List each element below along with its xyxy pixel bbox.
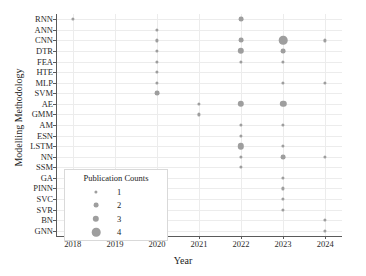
publication-counts-scatter-chart: RNNANNCNNDTRFEAHTEMLPSVMAEGMMAMESNLSTMNN… xyxy=(0,0,366,276)
y-axis-tick-label: LSTM xyxy=(30,142,53,151)
y-axis-tick-label: GMM xyxy=(32,110,53,119)
y-axis-tick-label: FEA xyxy=(37,57,53,66)
y-axis-tick-label: AE xyxy=(42,100,53,109)
y-axis-tick-label: ESN xyxy=(37,131,53,140)
y-axis-tick xyxy=(53,62,56,63)
data-point xyxy=(324,219,327,222)
x-axis-tick-labels: 2018201920202021202220232024 xyxy=(56,240,342,252)
y-axis-tick xyxy=(53,178,56,179)
data-point xyxy=(155,49,158,52)
x-axis-tick-label: 2021 xyxy=(191,240,208,249)
y-axis-tick xyxy=(53,93,56,94)
y-axis-tick-label: HTE xyxy=(36,68,53,77)
legend-key-circle xyxy=(94,190,97,193)
data-point xyxy=(238,48,244,54)
y-axis-tick xyxy=(53,125,56,126)
y-axis-tick xyxy=(53,167,56,168)
legend-key-circle xyxy=(94,203,99,208)
y-axis-tick-label: NN xyxy=(41,152,53,161)
data-point xyxy=(155,71,158,74)
y-axis-tick xyxy=(53,114,56,115)
data-point xyxy=(155,81,158,84)
data-point xyxy=(282,145,285,148)
data-point xyxy=(282,176,285,179)
data-point xyxy=(239,17,244,22)
y-axis-tick-label: DTR xyxy=(36,47,53,56)
data-point xyxy=(281,154,286,159)
y-axis-tick-label: PINN xyxy=(33,184,53,193)
data-point xyxy=(324,229,327,232)
y-axis-tick-label: SVM xyxy=(35,89,53,98)
data-point xyxy=(71,18,74,21)
data-point xyxy=(155,60,158,63)
data-point xyxy=(238,101,244,107)
data-point xyxy=(282,60,285,63)
data-point xyxy=(324,39,327,42)
y-axis-tick xyxy=(53,40,56,41)
y-axis-tick-label: GA xyxy=(41,174,53,183)
x-axis-tick-label: 2024 xyxy=(317,240,334,249)
y-axis-tick xyxy=(53,210,56,211)
legend-item-label: 2 xyxy=(117,200,121,210)
data-point xyxy=(281,49,286,54)
data-point xyxy=(239,38,244,43)
data-point xyxy=(282,81,285,84)
y-axis-title: Modelling Methodology xyxy=(13,48,24,188)
data-point xyxy=(155,91,160,96)
x-axis-title: Year xyxy=(0,255,366,266)
x-axis-tick-label: 2019 xyxy=(106,240,123,249)
x-axis-tick-label: 2018 xyxy=(64,240,81,249)
data-point xyxy=(197,102,200,105)
legend-item: 4 xyxy=(65,226,167,239)
legend-item-label: 3 xyxy=(117,214,121,224)
y-axis-tick xyxy=(53,30,56,31)
data-point xyxy=(280,101,286,107)
legend-key-circle xyxy=(93,215,99,221)
data-point xyxy=(239,155,242,158)
legend-item: 3 xyxy=(65,212,167,225)
y-axis-tick xyxy=(53,104,56,105)
legend-item-label: 1 xyxy=(117,187,121,197)
y-axis-tick-label: BN xyxy=(41,216,53,225)
data-point xyxy=(155,39,158,42)
x-axis-tick-label: 2023 xyxy=(275,240,292,249)
y-axis-tick-label: SVC xyxy=(36,195,53,204)
y-axis-tick-labels: RNNANNCNNDTRFEAHTEMLPSVMAEGMMAMESNLSTMNN… xyxy=(0,14,53,236)
data-point xyxy=(155,28,158,31)
legend-item: 2 xyxy=(65,199,167,212)
y-axis-tick xyxy=(53,72,56,73)
y-axis-tick xyxy=(53,188,56,189)
y-axis-tick xyxy=(53,220,56,221)
data-point xyxy=(324,155,327,158)
y-axis-tick-label: MLP xyxy=(36,78,53,87)
data-point xyxy=(282,123,285,126)
legend-item-label: 4 xyxy=(117,227,121,237)
data-point xyxy=(324,81,327,84)
data-point xyxy=(239,123,242,126)
data-point xyxy=(279,36,288,45)
data-point xyxy=(238,143,244,149)
data-point xyxy=(239,134,242,137)
y-axis-tick-label: CNN xyxy=(35,36,53,45)
x-axis-tick-label: 2022 xyxy=(233,240,250,249)
legend-item: 1 xyxy=(65,185,167,198)
y-axis-tick-label: ANN xyxy=(35,26,53,35)
data-point xyxy=(282,197,285,200)
y-axis-tick xyxy=(53,51,56,52)
y-axis-tick-label: SSM xyxy=(36,163,53,172)
x-axis-tick-label: 2020 xyxy=(148,240,165,249)
size-legend: Publication Counts 1234 xyxy=(64,169,168,241)
data-point xyxy=(239,166,242,169)
data-point xyxy=(282,208,285,211)
y-axis-tick-label: RNN xyxy=(35,15,53,24)
data-point xyxy=(282,187,285,190)
y-axis-tick-label: GNN xyxy=(35,226,53,235)
y-axis-tick-label: SVR xyxy=(36,205,53,214)
data-point xyxy=(197,113,200,116)
y-axis-tick xyxy=(53,19,56,20)
y-axis-tick xyxy=(53,199,56,200)
legend-title: Publication Counts xyxy=(65,173,167,183)
y-axis-tick xyxy=(53,146,56,147)
y-axis-tick-label: AM xyxy=(39,121,53,130)
y-axis-tick xyxy=(53,136,56,137)
